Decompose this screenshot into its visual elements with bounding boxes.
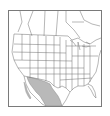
range-map bbox=[0, 0, 110, 116]
map-canvas bbox=[0, 0, 110, 116]
